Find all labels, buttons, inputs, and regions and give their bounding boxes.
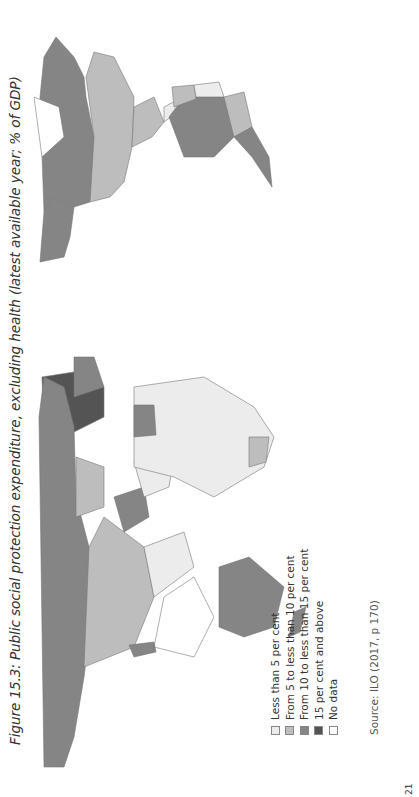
legend-item-less-than-5: Less than 5 per cent (268, 549, 283, 735)
legend-item-no-data: No data (326, 549, 341, 735)
region-algeria (134, 405, 156, 437)
figure-title: Figure 15.3: Public social protection ex… (7, 76, 23, 745)
region-kazakhstan (76, 457, 104, 517)
swatch-less-than-5 (271, 726, 280, 735)
legend-item-10-to-15: From 10 to less than 15 per cent (297, 549, 312, 735)
swatch-15-and-above (314, 726, 323, 735)
source-note: Source: ILO (2017, p 170) (368, 600, 380, 735)
legend-item-15-and-above: 15 per cent and above (312, 549, 327, 735)
page-number: 21 (404, 784, 414, 795)
legend-item-5-to-10: From 5 to less than 10 per cent (283, 549, 298, 735)
region-brazil (169, 97, 234, 157)
swatch-no-data (329, 726, 338, 735)
legend: Less than 5 per cent From 5 to less than… (268, 549, 341, 735)
region-usa (86, 52, 134, 202)
region-andes-central (194, 82, 224, 97)
swatch-5-to-10 (285, 726, 294, 735)
world-map (34, 0, 419, 797)
swatch-10-to-15 (300, 726, 309, 735)
region-mexico (132, 97, 164, 147)
rotated-page: Figure 15.3: Public social protection ex… (0, 0, 419, 797)
region-south-africa (249, 437, 269, 467)
region-russia (39, 377, 94, 767)
region-japan (129, 642, 156, 657)
region-chile (234, 127, 272, 187)
